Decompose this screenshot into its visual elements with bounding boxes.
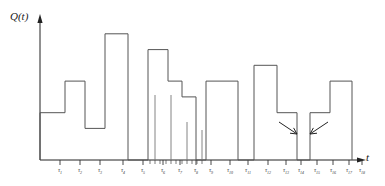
internal-drop-lines bbox=[155, 95, 202, 160]
arrow-shaft-1 bbox=[279, 122, 297, 134]
step-function-plot bbox=[0, 0, 385, 186]
x-tick-label-13: τ13 bbox=[283, 167, 289, 175]
x-tick-label-1: τ1 bbox=[58, 167, 62, 175]
y-axis-arrowhead bbox=[37, 14, 42, 23]
x-tick-label-12: τ12 bbox=[265, 167, 271, 175]
x-tick-label-16: τ16 bbox=[330, 167, 336, 175]
x-tick-label-14: τ14 bbox=[298, 167, 304, 175]
arrow-head-1 bbox=[290, 128, 297, 134]
step-curve bbox=[40, 34, 352, 160]
x-tick-label-3: τ3 bbox=[98, 167, 102, 175]
x-tick-label-10: τ10 bbox=[227, 167, 233, 175]
x-tick-label-11: τ11 bbox=[245, 167, 251, 175]
arrow-head-2 bbox=[310, 128, 317, 134]
annotation-arrow-1 bbox=[279, 122, 297, 134]
x-tick-label-2: τ2 bbox=[78, 167, 82, 175]
x-tick-label-5: τ5 bbox=[141, 167, 145, 175]
figure-canvas: Q(t) t τ1τ2τ3τ4τ5τ6τ7τ8τ9τ10τ11τ12τ13τ14… bbox=[0, 0, 385, 186]
x-tick-label-6: τ6 bbox=[161, 167, 165, 175]
x-tick-label-8: τ8 bbox=[194, 167, 198, 175]
x-axis-ticks bbox=[60, 160, 362, 165]
x-tick-label-18: τ18 bbox=[359, 167, 365, 175]
annotation-arrow-2 bbox=[310, 122, 328, 134]
x-tick-label-4: τ4 bbox=[121, 167, 125, 175]
x-tick-label-9: τ9 bbox=[209, 167, 213, 175]
x-axis-arrowhead bbox=[357, 157, 366, 162]
x-tick-label-17: τ17 bbox=[346, 167, 352, 175]
x-tick-label-15: τ15 bbox=[314, 167, 320, 175]
annotation-arrows bbox=[279, 122, 328, 134]
x-tick-label-7: τ7 bbox=[178, 167, 182, 175]
x-axis-minor-ticks bbox=[150, 160, 202, 164]
step-polyline bbox=[40, 34, 352, 160]
arrow-shaft-2 bbox=[310, 122, 328, 134]
